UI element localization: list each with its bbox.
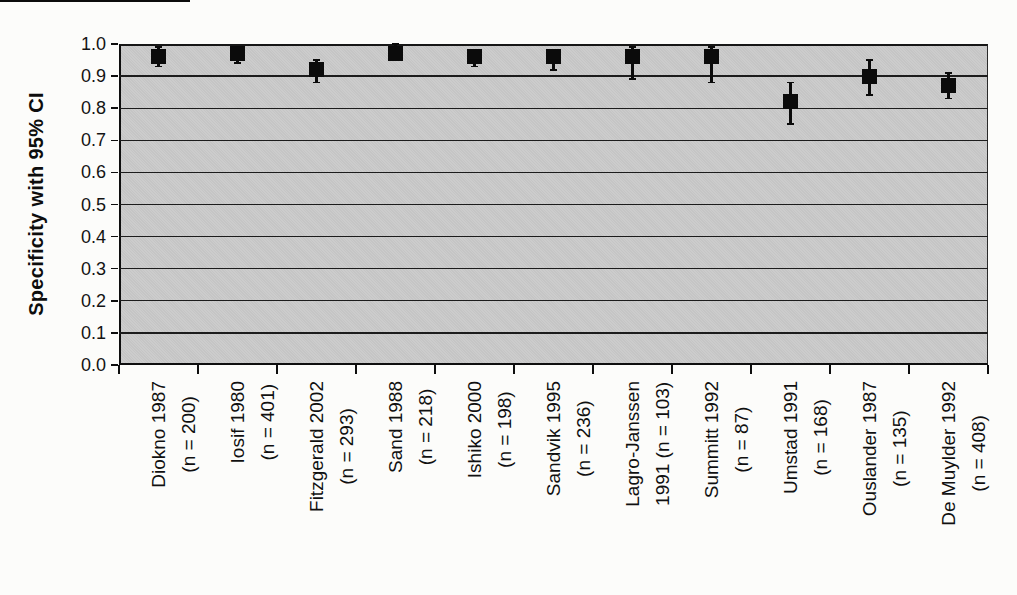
y-tick-label: 0.9 bbox=[58, 66, 106, 86]
error-bar-cap-bottom bbox=[313, 82, 320, 84]
x-category-label: Lagro-Janssen1991 (n = 103) bbox=[618, 381, 678, 571]
y-axis-tick bbox=[111, 236, 118, 238]
x-category-label: Ishiko 2000(n = 198) bbox=[460, 381, 520, 571]
y-axis-tick bbox=[111, 364, 118, 366]
x-axis-tick bbox=[276, 365, 278, 374]
y-tick-label: 0.5 bbox=[58, 195, 106, 215]
x-axis-tick bbox=[750, 365, 752, 374]
x-category-label-text: Umstad 1991(n = 168) bbox=[776, 381, 836, 494]
error-bar-cap-top bbox=[945, 72, 952, 74]
data-point-marker bbox=[941, 78, 956, 93]
y-tick-label: 0.4 bbox=[58, 227, 106, 247]
error-bar-cap-top bbox=[155, 46, 162, 48]
x-category-label: Sandvik 1995(n = 236) bbox=[539, 381, 599, 571]
scan-artifact-line bbox=[0, 0, 190, 2]
x-category-label: Iosif 1980(n = 401) bbox=[223, 381, 283, 571]
error-bar-cap-bottom bbox=[945, 98, 952, 100]
y-tick-label: 1.0 bbox=[58, 34, 106, 54]
x-category-label: Summitt 1992(n = 87) bbox=[697, 381, 757, 571]
y-axis-tick bbox=[111, 332, 118, 334]
error-bar-cap-top bbox=[708, 46, 715, 48]
x-category-label-text: Ouslander 1987(n = 135) bbox=[855, 381, 915, 516]
data-point-marker bbox=[230, 46, 245, 61]
x-category-label: De Muylder 1992(n = 408) bbox=[934, 381, 994, 571]
error-bar-cap-bottom bbox=[471, 66, 478, 68]
y-axis-tick bbox=[111, 140, 118, 142]
x-axis-tick bbox=[513, 365, 515, 374]
data-point-marker bbox=[546, 49, 561, 64]
data-point-marker bbox=[309, 62, 324, 77]
x-axis-tick bbox=[355, 365, 357, 374]
y-axis-tick bbox=[111, 268, 118, 270]
gridline bbox=[119, 204, 988, 205]
y-axis-tick bbox=[111, 43, 118, 45]
gridline bbox=[119, 172, 988, 173]
error-bar-cap-top bbox=[392, 43, 399, 45]
x-category-label-text: Ishiko 2000(n = 198) bbox=[460, 381, 520, 478]
error-bar-cap-bottom bbox=[550, 69, 557, 71]
x-category-label: Diokno 1987(n = 200) bbox=[144, 381, 204, 571]
specificity-forest-chart: Specificity with 95% CI 0.00.10.20.30.40… bbox=[0, 0, 1017, 595]
y-tick-label: 0.2 bbox=[58, 291, 106, 311]
x-axis-tick bbox=[987, 365, 989, 374]
x-axis-tick bbox=[434, 365, 436, 374]
error-bar-cap-bottom bbox=[234, 62, 241, 64]
gridline bbox=[119, 108, 988, 109]
gridline bbox=[119, 332, 988, 333]
error-bar-cap-bottom bbox=[155, 66, 162, 68]
y-tick-label: 0.6 bbox=[58, 162, 106, 182]
x-category-label-text: Sandvik 1995(n = 236) bbox=[539, 381, 599, 496]
x-category-label-text: Fitzgerald 2002(n = 293) bbox=[302, 381, 362, 512]
x-axis-tick bbox=[118, 365, 120, 374]
y-axis-title: Specificity with 95% CI bbox=[25, 92, 48, 316]
error-bar-cap-bottom bbox=[866, 94, 873, 96]
y-tick-label: 0.1 bbox=[58, 323, 106, 343]
error-bar-cap-top bbox=[866, 59, 873, 61]
x-category-label-text: Sand 1988(n = 218) bbox=[381, 381, 441, 473]
x-axis-tick bbox=[908, 365, 910, 374]
error-bar-cap-top bbox=[313, 59, 320, 61]
error-bar-cap-bottom bbox=[629, 78, 636, 80]
x-axis-tick bbox=[197, 365, 199, 374]
error-bar-cap-bottom bbox=[787, 123, 794, 125]
x-category-label-text: De Muylder 1992(n = 408) bbox=[934, 381, 994, 526]
data-point-marker bbox=[783, 94, 798, 109]
x-axis-tick bbox=[829, 365, 831, 374]
x-category-label-text: Iosif 1980(n = 401) bbox=[223, 381, 283, 463]
x-category-label-text: Lagro-Janssen1991 (n = 103) bbox=[618, 381, 678, 507]
y-tick-label: 0.8 bbox=[58, 98, 106, 118]
data-point-marker bbox=[388, 46, 403, 61]
data-point-marker bbox=[151, 49, 166, 64]
error-bar-cap-bottom bbox=[708, 82, 715, 84]
x-category-label: Umstad 1991(n = 168) bbox=[776, 381, 836, 571]
data-point-marker bbox=[704, 49, 719, 64]
y-axis-tick bbox=[111, 172, 118, 174]
x-category-label: Ouslander 1987(n = 135) bbox=[855, 381, 915, 571]
y-axis-tick bbox=[111, 107, 118, 109]
y-axis-tick bbox=[111, 204, 118, 206]
y-axis-tick bbox=[111, 300, 118, 302]
gridline bbox=[119, 268, 988, 269]
x-axis-tick bbox=[671, 365, 673, 374]
y-tick-label: 0.0 bbox=[58, 355, 106, 375]
error-bar-cap-top bbox=[629, 46, 636, 48]
y-tick-label: 0.3 bbox=[58, 259, 106, 279]
x-axis-tick bbox=[592, 365, 594, 374]
error-bar-cap-top bbox=[787, 82, 794, 84]
data-point-marker bbox=[862, 69, 877, 84]
x-category-label-text: Diokno 1987(n = 200) bbox=[144, 381, 204, 488]
gridline bbox=[119, 236, 988, 237]
data-point-marker bbox=[625, 49, 640, 64]
y-axis-tick bbox=[111, 75, 118, 77]
x-category-label-text: Summitt 1992(n = 87) bbox=[697, 381, 757, 498]
gridline bbox=[119, 140, 988, 141]
gridline bbox=[119, 300, 988, 301]
gridline bbox=[119, 75, 988, 76]
x-category-label: Fitzgerald 2002(n = 293) bbox=[302, 381, 362, 571]
y-tick-label: 0.7 bbox=[58, 130, 106, 150]
x-category-label: Sand 1988(n = 218) bbox=[381, 381, 441, 571]
data-point-marker bbox=[467, 49, 482, 64]
